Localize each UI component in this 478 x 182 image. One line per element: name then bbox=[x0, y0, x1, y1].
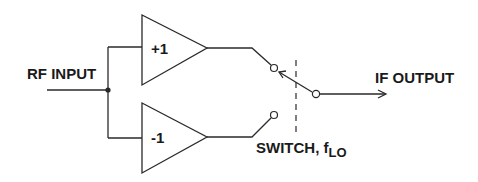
switch-contact-bottom bbox=[271, 112, 278, 119]
top-amp-output-wire bbox=[207, 48, 271, 65]
switch-label-subscript: LO bbox=[329, 145, 347, 160]
rf-input-label: RF INPUT bbox=[27, 66, 96, 81]
mixer-diagram: RF INPUT +1 -1 IF OUTPUT SWITCH, fLO bbox=[0, 0, 478, 182]
amplifier-plus1-label: +1 bbox=[151, 41, 168, 56]
bottom-amp-output-wire bbox=[207, 118, 271, 137]
switch-label-text: SWITCH, f bbox=[256, 139, 329, 156]
amplifier-minus1-label: -1 bbox=[151, 130, 164, 145]
switch-contact-top bbox=[271, 65, 278, 72]
if-output-label: IF OUTPUT bbox=[375, 70, 454, 85]
diagram-canvas bbox=[0, 0, 478, 182]
switch-pivot bbox=[312, 90, 319, 97]
switch-label: SWITCH, fLO bbox=[256, 140, 347, 155]
